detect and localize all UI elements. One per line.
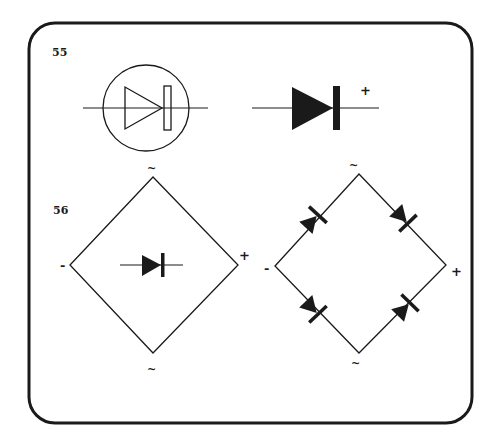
bridge-b-plus-label: + xyxy=(451,265,462,278)
bridge-rectifier-compact xyxy=(70,177,238,353)
diode-in-circle-symbol xyxy=(83,65,208,151)
bridge-a-minus-label: - xyxy=(60,259,65,272)
bridge-a-top-ac-label: ~ xyxy=(147,163,156,174)
bridge-rectifier-four-diodes xyxy=(275,174,446,353)
bridge-a-plus-label: + xyxy=(239,249,250,262)
diode-bottom-left xyxy=(297,293,328,324)
bridge-b-bottom-ac-label: ~ xyxy=(351,358,360,369)
diagram-canvas xyxy=(0,0,498,444)
bridge-b-top-ac-label: ~ xyxy=(349,160,358,171)
diode-top-left xyxy=(297,205,328,236)
diode-bottom-right xyxy=(389,293,420,324)
figure-number-56: 56 xyxy=(53,205,68,216)
bridge-b-minus-label: - xyxy=(264,262,269,275)
diode-top-right xyxy=(387,202,418,233)
bridge-a-bottom-ac-label: ~ xyxy=(147,364,156,375)
filled-diode-plus-label: + xyxy=(360,84,371,97)
figure-number-55: 55 xyxy=(52,47,67,58)
